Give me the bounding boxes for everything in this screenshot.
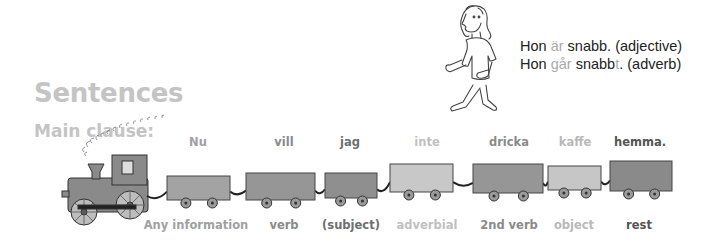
coupling-1 xyxy=(147,192,167,199)
wagon-5 xyxy=(473,164,543,201)
coupling-5 xyxy=(453,182,473,185)
coupling-3 xyxy=(315,189,325,193)
wagon-4 xyxy=(390,164,453,200)
wagon-word-7: hemma. xyxy=(585,135,695,149)
wagon-label-7: rest xyxy=(574,218,704,232)
coupling-2 xyxy=(230,191,246,195)
train-diagram xyxy=(0,0,706,245)
wagon-6 xyxy=(548,166,601,198)
locomotive-icon xyxy=(62,155,148,225)
coupling-7 xyxy=(601,181,610,185)
wagon-7 xyxy=(610,161,672,199)
coupling-6 xyxy=(543,182,548,186)
wagon-2 xyxy=(246,173,315,208)
wagon-1 xyxy=(167,176,230,208)
coupling-4 xyxy=(377,182,390,191)
wagon-3 xyxy=(325,173,377,206)
